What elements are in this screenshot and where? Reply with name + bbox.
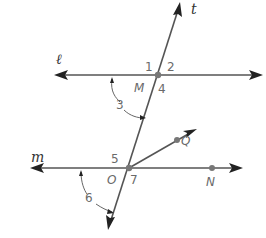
point-o-dot xyxy=(126,165,132,171)
angle-5-label: 5 xyxy=(111,152,119,166)
line-t-label: t xyxy=(191,1,197,17)
point-m-label: M xyxy=(134,81,145,95)
geometry-diagram: ℓ t m 1 2 3 4 5 6 7 M O Q N xyxy=(0,0,266,238)
point-o-label: O xyxy=(107,173,116,187)
angle-4-label: 4 xyxy=(158,82,166,96)
angle-6-label: 6 xyxy=(85,191,93,205)
point-m-dot xyxy=(155,72,161,78)
point-n-dot xyxy=(209,165,215,171)
line-m-label: m xyxy=(31,149,44,165)
line-t xyxy=(106,2,182,230)
angle-7-label: 7 xyxy=(130,173,138,187)
angle-2-label: 2 xyxy=(167,60,175,74)
line-l-label: ℓ xyxy=(56,51,62,67)
arrowhead-up-icon xyxy=(173,2,182,17)
arrowhead-down-icon xyxy=(106,215,115,230)
point-q-dot xyxy=(174,137,180,143)
point-n-label: N xyxy=(206,175,215,189)
angle-1-label: 1 xyxy=(145,60,153,74)
point-q-label: Q xyxy=(181,134,190,148)
angle-3-label: 3 xyxy=(116,98,124,112)
